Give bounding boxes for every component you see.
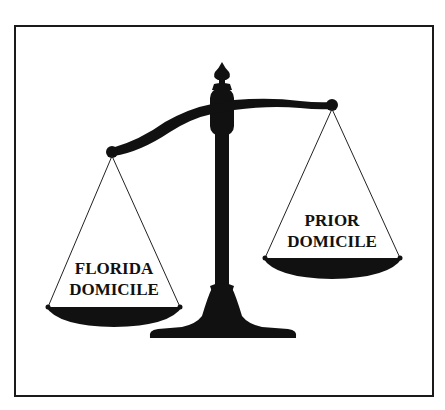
right-pan-label: PRIOR DOMICILE (282, 210, 382, 252)
left-pan-label-line1: FLORIDA (64, 258, 164, 279)
scales-of-justice-illustration (0, 0, 445, 410)
scale-column (210, 130, 234, 292)
right-pan-label-line1: PRIOR (282, 210, 382, 231)
right-pan (263, 109, 403, 279)
left-pan-label: FLORIDA DOMICILE (64, 258, 164, 300)
finial-icon (212, 62, 232, 90)
left-pan-label-line2: DOMICILE (64, 279, 164, 300)
right-pan-label-line2: DOMICILE (282, 231, 382, 252)
left-pan (46, 156, 183, 327)
